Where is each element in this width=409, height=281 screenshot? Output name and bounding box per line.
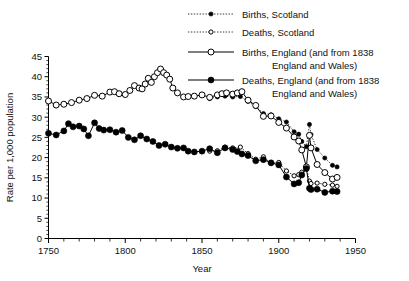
y-tick-label: 5 — [37, 213, 42, 224]
data-point — [53, 102, 59, 108]
data-point — [335, 165, 339, 169]
x-tick-label: 1800 — [115, 245, 136, 256]
data-point — [148, 79, 154, 85]
data-point — [99, 93, 105, 99]
y-tick-label: 45 — [31, 51, 42, 62]
legend-swatch-marker — [208, 77, 214, 83]
data-point — [239, 89, 245, 95]
data-point — [330, 183, 334, 187]
data-point — [292, 130, 296, 134]
data-point — [84, 96, 90, 102]
data-point — [174, 90, 180, 96]
data-point — [207, 146, 213, 152]
legend-swatch-marker — [208, 49, 214, 55]
data-point — [309, 181, 313, 185]
data-point — [299, 172, 305, 178]
data-point — [245, 97, 251, 103]
x-tick-label: 1950 — [345, 245, 366, 256]
data-point — [260, 157, 266, 163]
data-point — [276, 119, 282, 125]
data-point — [260, 113, 266, 119]
data-point — [131, 137, 137, 143]
data-point — [268, 160, 274, 166]
data-point — [268, 113, 274, 119]
data-point — [144, 136, 150, 142]
data-point — [238, 145, 242, 149]
data-point — [150, 138, 156, 144]
data-point — [191, 149, 197, 155]
data-point — [174, 145, 180, 151]
data-point — [61, 128, 67, 134]
data-point — [76, 97, 82, 103]
data-point — [162, 141, 168, 147]
data-point — [167, 76, 173, 82]
data-point — [315, 147, 319, 151]
legend-label: Births, Scotland — [242, 9, 309, 20]
data-point — [199, 92, 205, 98]
data-point — [81, 126, 87, 132]
y-tick-label: 35 — [31, 91, 42, 102]
data-point — [308, 187, 314, 193]
legend-label: Deaths, Scotland — [242, 27, 314, 38]
data-point — [292, 174, 296, 178]
data-point — [283, 125, 289, 131]
data-point — [101, 127, 107, 133]
legend-label: Births, England (and from 1838 — [242, 47, 374, 58]
data-point — [335, 184, 339, 188]
data-point — [308, 145, 314, 151]
data-point — [276, 162, 282, 168]
data-point — [314, 161, 320, 167]
data-point — [142, 81, 148, 87]
data-point — [156, 142, 162, 148]
data-point — [119, 128, 125, 134]
births-deaths-line-chart: 05101520253035404517501800185019001950 B… — [0, 0, 409, 281]
data-point — [207, 94, 213, 100]
data-point — [284, 120, 288, 124]
y-tick-label: 25 — [31, 132, 42, 143]
legend-label-line2: England and Wales) — [272, 88, 357, 99]
data-point — [334, 189, 340, 195]
data-point — [92, 92, 98, 98]
y-tick-label: 40 — [31, 71, 42, 82]
data-point — [299, 147, 305, 153]
legend-swatch-marker — [209, 12, 213, 16]
data-point — [253, 158, 259, 164]
y-tick-label: 10 — [31, 192, 42, 203]
legend-label: Deaths, England (and from 1838 — [242, 75, 379, 86]
x-tick-label: 1900 — [268, 245, 289, 256]
data-point — [296, 180, 302, 186]
data-point — [138, 133, 144, 139]
data-point — [315, 181, 319, 185]
data-point — [284, 169, 288, 173]
x-tick-label: 1750 — [38, 245, 59, 256]
legend-swatch-marker — [209, 30, 213, 34]
legend-label-line2: England and Wales) — [272, 60, 357, 71]
data-point — [199, 148, 205, 154]
data-point — [323, 156, 327, 160]
y-tick-label: 15 — [31, 172, 42, 183]
data-point — [314, 186, 320, 192]
data-point — [185, 94, 191, 100]
data-point — [222, 145, 228, 151]
data-point — [191, 93, 197, 99]
data-point — [239, 151, 245, 157]
data-point — [303, 166, 309, 172]
data-point — [69, 100, 75, 106]
data-point — [127, 87, 133, 93]
data-point — [46, 98, 52, 104]
data-point — [170, 85, 176, 91]
data-point — [323, 182, 327, 186]
data-point — [283, 174, 289, 180]
data-point — [296, 138, 302, 144]
data-point — [253, 102, 259, 108]
data-point — [306, 132, 312, 138]
data-point — [330, 163, 334, 167]
data-point — [70, 124, 76, 130]
data-point — [245, 153, 251, 159]
data-point — [113, 129, 119, 135]
data-point — [92, 120, 98, 126]
data-point — [125, 134, 131, 140]
data-point — [224, 90, 230, 96]
data-point — [185, 148, 191, 154]
y-tick-label: 30 — [31, 112, 42, 123]
